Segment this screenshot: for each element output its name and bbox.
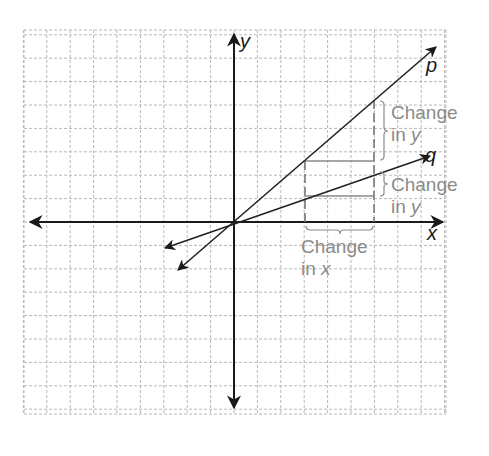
change-in-x-label: Change in x bbox=[301, 236, 368, 280]
change-in-y-p-label: Change in y bbox=[391, 102, 458, 146]
annotation-line2: in x bbox=[301, 258, 368, 280]
annotation-line2: in y bbox=[391, 196, 458, 218]
annotation-line1: Change bbox=[391, 174, 458, 196]
coordinate-plane bbox=[0, 0, 489, 456]
change-in-y-q-label: Change in y bbox=[391, 174, 458, 218]
y-axis-label: y bbox=[240, 30, 250, 53]
annotation-line1: Change bbox=[301, 236, 368, 258]
annotation-line2: in y bbox=[391, 124, 458, 146]
brace-change-x bbox=[306, 226, 373, 234]
brace-change-y-p bbox=[380, 101, 388, 160]
annotation-line1: Change bbox=[391, 102, 458, 124]
line-p-label: p bbox=[426, 54, 437, 77]
x-axis-label: x bbox=[427, 222, 437, 245]
line-q-label: q bbox=[425, 144, 436, 167]
